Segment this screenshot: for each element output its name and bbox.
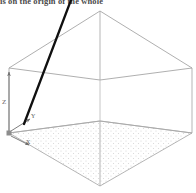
box-top-face <box>9 11 192 80</box>
isometric-box-svg <box>0 0 196 193</box>
z-axis-label: Z <box>2 99 6 105</box>
ray-line <box>24 0 71 124</box>
y-axis-label: Y <box>31 113 35 119</box>
diagram-canvas: is on the origin of the whole <box>0 0 196 193</box>
y-axis-arrow <box>11 119 30 131</box>
x-axis-label: X <box>26 139 30 145</box>
origin-marker <box>7 131 12 136</box>
floor-plane-stipple <box>9 121 192 186</box>
